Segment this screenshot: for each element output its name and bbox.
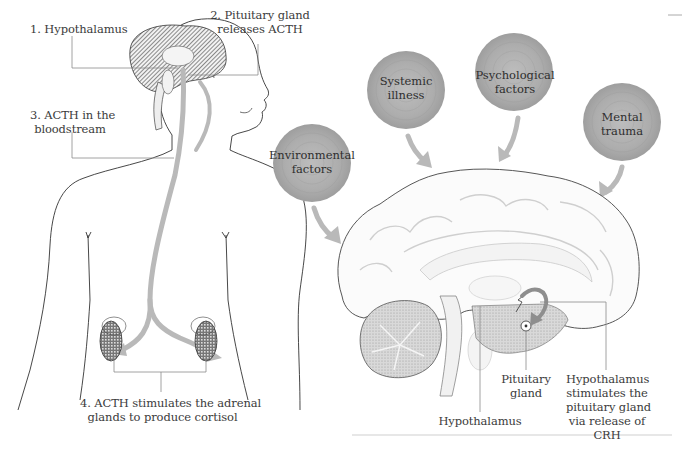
label-pituitary-line1: Pituitary — [498, 372, 554, 386]
label-pituitary-line2: gland — [498, 386, 554, 400]
bubble-mental-trauma: Mental trauma — [582, 110, 662, 138]
label-pituitary-gland: Pituitary gland — [498, 372, 554, 400]
label-crh-stimulation: Hypothalamus stimulates the pituitary gl… — [566, 372, 648, 442]
bubble-mental-line2: trauma — [582, 124, 662, 138]
label-step2-line2: releases ACTH — [210, 22, 310, 36]
label-crh-line3: pituitary gland — [566, 400, 648, 414]
hpa-axis-figure: 1. Hypothalamus 2. Pituitary gland relea… — [0, 0, 682, 456]
bubble-systemic-line1: Systemic — [366, 74, 446, 88]
bubble-environmental-line2: factors — [264, 162, 360, 176]
brain-sagittal — [338, 169, 639, 396]
bubble-systemic-illness: Systemic illness — [366, 74, 446, 102]
label-step2-line1: 2. Pituitary gland — [210, 8, 310, 22]
label-crh-line5: CRH — [566, 428, 648, 442]
bubble-psychological-factors: Psychological factors — [470, 68, 560, 96]
label-step3-line2: bloodstream — [30, 122, 110, 136]
label-crh-line4: via release of — [566, 414, 648, 428]
bubble-psychological-line2: factors — [470, 82, 560, 96]
label-step3-line1: 3. ACTH in the — [30, 108, 110, 122]
label-crh-line1: Hypothalamus — [566, 372, 648, 386]
bubble-mental-line1: Mental — [582, 110, 662, 124]
label-step2-pituitary: 2. Pituitary gland releases ACTH — [210, 8, 310, 36]
label-step4-adrenal: 4. ACTH stimulates the adrenal glands to… — [80, 396, 245, 424]
label-step4-line1: 4. ACTH stimulates the adrenal — [80, 396, 245, 410]
bubble-psychological-line1: Psychological — [470, 68, 560, 82]
bubble-systemic-line2: illness — [366, 88, 446, 102]
label-step1-hypothalamus: 1. Hypothalamus — [30, 22, 128, 36]
label-step4-line2: glands to produce cortisol — [80, 410, 245, 424]
bubble-environmental-line1: Environmental — [264, 148, 360, 162]
acth-bloodstream-arrow — [122, 70, 212, 355]
label-hypothalamus-brain: Hypothalamus — [430, 414, 530, 428]
label-step3-acth-bloodstream: 3. ACTH in the bloodstream — [30, 108, 110, 136]
head-brain-illustration — [130, 25, 226, 130]
bubble-environmental-factors: Environmental factors — [264, 148, 360, 176]
label-crh-line2: stimulates the — [566, 386, 648, 400]
